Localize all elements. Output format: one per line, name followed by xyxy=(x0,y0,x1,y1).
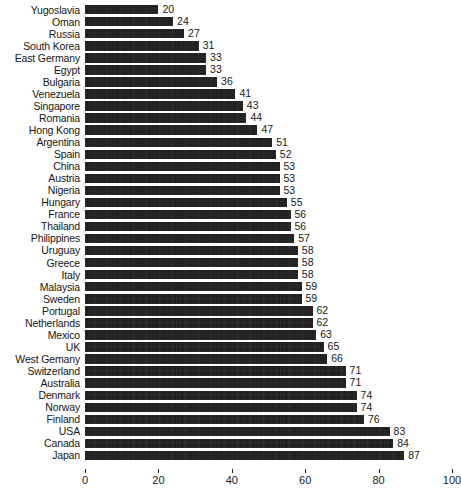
bar-track: 59 xyxy=(85,293,459,305)
bar xyxy=(85,415,364,424)
bar-track: 66 xyxy=(85,353,459,365)
x-axis-tick-label: 100 xyxy=(443,474,461,487)
bar xyxy=(85,17,173,26)
bar-value-label: 83 xyxy=(394,426,406,438)
bar-track: 33 xyxy=(85,64,459,76)
bar-row: Yugoslavia20 xyxy=(0,4,459,16)
bar-value-label: 55 xyxy=(291,197,303,209)
bar-track: 43 xyxy=(85,100,459,112)
category-label: West Gemany xyxy=(0,354,80,365)
bar-value-label: 65 xyxy=(328,341,340,353)
bar-track: 58 xyxy=(85,245,459,257)
category-label: China xyxy=(0,161,80,172)
bar xyxy=(85,41,199,50)
bar-value-label: 58 xyxy=(302,269,314,281)
bar-row: Greece58 xyxy=(0,257,459,269)
bar-track: 76 xyxy=(85,414,459,426)
bar-row: South Korea31 xyxy=(0,40,459,52)
bar xyxy=(85,210,291,219)
bar-row: Argentina51 xyxy=(0,137,459,149)
x-axis-tick xyxy=(452,469,453,473)
bar xyxy=(85,89,235,98)
bar xyxy=(85,439,393,448)
bar-row: Hungary55 xyxy=(0,197,459,209)
bar-track: 53 xyxy=(85,161,459,173)
category-label: Canada xyxy=(0,438,80,449)
bar-track: 63 xyxy=(85,329,459,341)
bar-track: 31 xyxy=(85,40,459,52)
bar-value-label: 43 xyxy=(247,100,259,112)
bar-track: 58 xyxy=(85,257,459,269)
category-label: Bulgaria xyxy=(0,77,80,88)
bar-value-label: 71 xyxy=(350,377,362,389)
chart-plot-area: Yugoslavia20Oman24Russia27South Korea31E… xyxy=(0,4,459,462)
bar-track: 47 xyxy=(85,124,459,136)
bar xyxy=(85,186,280,195)
x-axis-tick xyxy=(232,469,233,473)
bar xyxy=(85,294,302,303)
bar-track: 51 xyxy=(85,137,459,149)
bar-row: Netherlands62 xyxy=(0,317,459,329)
bar-track: 56 xyxy=(85,221,459,233)
bar-value-label: 76 xyxy=(368,414,380,426)
bar xyxy=(85,258,298,267)
category-label: Switzerland xyxy=(0,366,80,377)
bar-row: Italy58 xyxy=(0,269,459,281)
bar-row: Romania44 xyxy=(0,112,459,124)
bar-value-label: 66 xyxy=(331,353,343,365)
bar-row: Uruguay58 xyxy=(0,245,459,257)
bar xyxy=(85,53,206,62)
category-label: Venezuela xyxy=(0,89,80,100)
category-label: Egypt xyxy=(0,65,80,76)
bar xyxy=(85,5,158,14)
bar xyxy=(85,306,313,315)
bar-row: Canada84 xyxy=(0,438,459,450)
bar-row: Venezuela41 xyxy=(0,88,459,100)
bar xyxy=(85,378,346,387)
bar xyxy=(85,150,276,159)
bar-track: 36 xyxy=(85,76,459,88)
category-label: Malaysia xyxy=(0,282,80,293)
bar xyxy=(85,65,206,74)
x-axis-tick-label: 0 xyxy=(82,474,88,487)
bar xyxy=(85,318,313,327)
bar-track: 74 xyxy=(85,390,459,402)
bar-row: Japan87 xyxy=(0,450,459,462)
bar-value-label: 84 xyxy=(397,438,409,450)
bar xyxy=(85,101,243,110)
bar xyxy=(85,451,404,460)
bar-track: 62 xyxy=(85,305,459,317)
category-label: Philippines xyxy=(0,233,80,244)
bar xyxy=(85,138,272,147)
bar-value-label: 56 xyxy=(295,221,307,233)
category-label: Uruguay xyxy=(0,245,80,256)
bar-row: Philippines57 xyxy=(0,233,459,245)
bar-track: 41 xyxy=(85,88,459,100)
x-axis-tick xyxy=(158,469,159,473)
x-axis-tick-label: 20 xyxy=(152,474,164,487)
bar xyxy=(85,113,246,122)
bar-value-label: 59 xyxy=(306,281,318,293)
category-label: Denmark xyxy=(0,390,80,401)
bar xyxy=(85,174,280,183)
category-label: Hungary xyxy=(0,197,80,208)
category-label: Hong Kong xyxy=(0,125,80,136)
category-label: Argentina xyxy=(0,137,80,148)
category-label: Austria xyxy=(0,173,80,184)
category-label: Romania xyxy=(0,113,80,124)
bar-value-label: 47 xyxy=(261,124,273,136)
x-axis-tick xyxy=(305,469,306,473)
bar-value-label: 53 xyxy=(284,173,296,185)
bar-value-label: 52 xyxy=(280,149,292,161)
category-label: France xyxy=(0,209,80,220)
bar xyxy=(85,403,357,412)
category-label: Thailand xyxy=(0,221,80,232)
bar-row: Hong Kong47 xyxy=(0,124,459,136)
category-label: Nigeria xyxy=(0,185,80,196)
bar-value-label: 62 xyxy=(317,317,329,329)
category-label: East Germany xyxy=(0,53,80,64)
bar-value-label: 59 xyxy=(306,293,318,305)
bar-track: 71 xyxy=(85,365,459,377)
x-axis-tick-label: 80 xyxy=(372,474,384,487)
bar-row: Norway74 xyxy=(0,402,459,414)
